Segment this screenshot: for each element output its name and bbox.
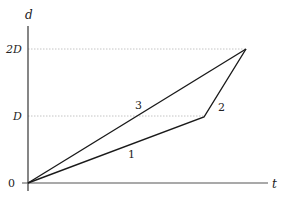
y-tick-label-2D: 2D [5, 43, 22, 56]
path-3-line [28, 49, 246, 183]
origin-label: 0 [8, 177, 15, 190]
path-label-3: 3 [135, 99, 142, 112]
path-label-1: 1 [128, 148, 135, 161]
y-tick-label-D: D [12, 110, 22, 123]
path-label-2: 2 [218, 101, 225, 114]
x-axis-label: t [272, 177, 277, 191]
y-axis-label: d [25, 8, 33, 22]
distance-time-diagram: d t 0 2D D 3 1 2 [0, 0, 285, 199]
